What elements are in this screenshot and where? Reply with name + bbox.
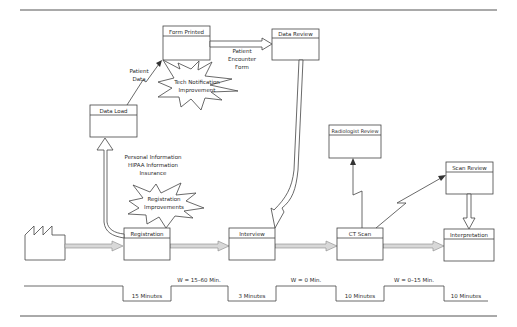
lightning-arrow-icon xyxy=(127,60,162,105)
hollow-arrow-icon xyxy=(271,60,303,228)
svg-text:Data: Data xyxy=(132,76,145,82)
hollow-arrow-icon xyxy=(97,138,124,238)
svg-text:Registration: Registration xyxy=(147,196,181,203)
info-box-radiologist-review[interactable]: Radiologist Review xyxy=(329,125,381,158)
process-box-ct-scan[interactable]: CT Scan xyxy=(337,228,383,260)
process-time: 15 Minutes xyxy=(132,293,163,299)
push-arrow-icon xyxy=(65,241,123,251)
process-label: Registration xyxy=(130,231,164,238)
info-box-label: Data Load xyxy=(99,108,127,114)
svg-text:Patient: Patient xyxy=(232,48,252,54)
push-arrow-icon xyxy=(383,241,444,251)
svg-text:Tech Notification: Tech Notification xyxy=(173,79,220,85)
lightning-arrow-icon xyxy=(350,158,362,228)
wait-time: W = 15–60 Min. xyxy=(177,277,221,283)
svg-text:Patient: Patient xyxy=(129,68,149,74)
lightning-arrow-icon xyxy=(376,175,446,228)
svg-text:Insurance: Insurance xyxy=(140,170,168,176)
info-box-label: Radiologist Review xyxy=(331,128,378,135)
process-label: CT Scan xyxy=(349,231,372,237)
process-time: 10 Minutes xyxy=(345,293,376,299)
kaizen-burst-tech-notification[interactable]: Tech Notification Improvement xyxy=(158,60,238,110)
kaizen-burst-registration-improvements[interactable]: Registration Improvements xyxy=(128,183,204,228)
process-box-registration[interactable]: Registration xyxy=(124,228,170,260)
process-time: 10 Minutes xyxy=(451,293,482,299)
wait-time: W = 0–15 Min. xyxy=(394,277,434,283)
push-arrow-icon xyxy=(275,241,337,251)
info-box-form-printed[interactable]: Form Printed xyxy=(163,26,210,60)
info-box-label: Form Printed xyxy=(169,29,204,35)
svg-text:Personal Information: Personal Information xyxy=(125,154,182,160)
info-box-label: Data Review xyxy=(278,31,313,37)
process-label: Interpretation xyxy=(450,232,489,239)
factory-icon xyxy=(25,226,65,260)
process-label: Interview xyxy=(239,231,265,237)
svg-text:Form: Form xyxy=(235,64,249,70)
flow-label-patient-encounter-form: Patient Encounter Form xyxy=(228,48,257,70)
flow-label-patient-data: Patient Data xyxy=(129,68,149,82)
push-arrow-icon xyxy=(170,241,229,251)
timeline: 15 Minutes 3 Minutes 10 Minutes 10 Minut… xyxy=(24,277,488,301)
info-box-scan-review[interactable]: Scan Review xyxy=(446,162,493,194)
info-box-data-review[interactable]: Data Review xyxy=(272,29,319,60)
svg-text:HIPAA Information: HIPAA Information xyxy=(128,162,179,168)
svg-text:Improvement: Improvement xyxy=(179,87,217,94)
svg-text:Improvements: Improvements xyxy=(144,204,184,211)
flow-label-registration-info: Personal Information HIPAA Information I… xyxy=(125,154,182,176)
svg-text:Encounter: Encounter xyxy=(228,56,257,62)
hollow-arrow-icon xyxy=(463,194,475,229)
info-box-data-load[interactable]: Data Load xyxy=(90,105,137,137)
process-box-interpretation[interactable]: Interpretation xyxy=(444,229,494,261)
process-time: 3 Minutes xyxy=(239,293,266,299)
starburst-icon xyxy=(158,60,238,110)
info-box-label: Scan Review xyxy=(452,165,487,171)
wait-time: W = 0 Min. xyxy=(291,277,322,283)
value-stream-map: Registration Interview CT Scan Interpret… xyxy=(0,0,517,327)
process-box-interview[interactable]: Interview xyxy=(229,228,275,260)
